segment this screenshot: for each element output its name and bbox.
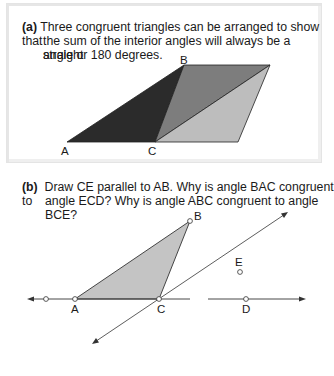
label-a2: A	[71, 303, 79, 315]
point-left	[44, 297, 49, 302]
point-a	[73, 297, 78, 302]
panel-b-caption-line2: angle ECD? Why is angle ABC congruent to…	[45, 194, 334, 222]
label-d: D	[242, 303, 250, 315]
point-c	[157, 297, 162, 302]
label-e: E	[235, 256, 243, 268]
right-arrow-icon	[299, 297, 306, 302]
triangle-abc	[75, 221, 190, 299]
point-e	[238, 270, 243, 275]
label-a: A	[61, 145, 69, 157]
left-arrow-icon	[27, 297, 34, 302]
label-c2: C	[157, 303, 165, 315]
panel-b-tag: (b)	[22, 180, 38, 194]
label-b2: B	[194, 210, 202, 222]
label-c: C	[148, 145, 156, 157]
label-b: B	[180, 54, 188, 66]
point-d	[244, 297, 249, 302]
lower-arrow-icon	[92, 338, 99, 344]
